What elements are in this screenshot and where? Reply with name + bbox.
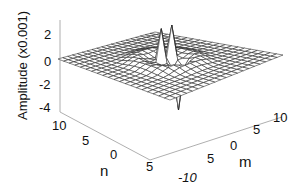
z-tick: 2 (44, 27, 51, 42)
m-ticks: -10 5 0 5 10 (178, 110, 287, 185)
n-tick: 10 (52, 118, 66, 133)
m-tick: 0 (230, 138, 237, 153)
n-axis-label: n (100, 162, 108, 179)
m-axis-label: m (239, 153, 252, 170)
surface-mesh (58, 25, 283, 110)
surface-plot: 2 0 -2 -4 10 5 0 5 n -10 5 0 5 10 m Ampl… (0, 0, 300, 192)
n-tick: 5 (146, 159, 153, 174)
z-axis-label: Amplitude (x0.001) (15, 11, 30, 120)
n-tick: 0 (110, 147, 117, 162)
z-tick: -2 (39, 77, 51, 92)
n-axis-line (60, 112, 150, 160)
m-tick: 5 (207, 151, 214, 166)
z-tick: 0 (44, 54, 51, 69)
n-tick: 5 (82, 133, 89, 148)
m-tick: -10 (178, 170, 198, 185)
m-axis-line (150, 117, 282, 160)
z-tick: -4 (39, 100, 51, 115)
m-tick: 10 (273, 110, 287, 125)
z-ticks: 2 0 -2 -4 (39, 27, 51, 115)
m-tick: 5 (253, 122, 260, 137)
